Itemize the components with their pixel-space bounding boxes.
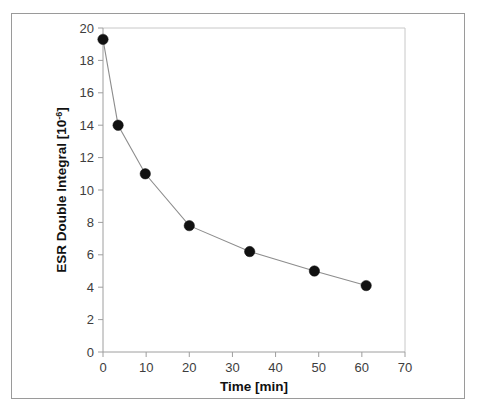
x-tick-label: 50	[311, 360, 325, 375]
x-tick-label: 70	[398, 360, 412, 375]
y-tick-label: 6	[87, 247, 94, 262]
y-tick-label: 10	[80, 183, 94, 198]
x-axis: 010203040506070	[99, 352, 412, 375]
data-point	[140, 169, 150, 179]
y-axis-title-main: ESR Double Integral [10	[54, 120, 69, 273]
figure-root: 02468101214161820 010203040506070 Time […	[0, 0, 481, 414]
data-point	[244, 246, 254, 256]
y-tick-label: 4	[87, 280, 94, 295]
y-axis-tick-labels: 02468101214161820	[80, 21, 94, 360]
x-axis-ticks	[103, 352, 405, 357]
data-point	[98, 34, 108, 44]
series-line	[103, 39, 366, 285]
data-point	[309, 266, 319, 276]
data-point	[184, 220, 194, 230]
y-axis-ticks	[98, 28, 103, 352]
x-tick-label: 40	[268, 360, 282, 375]
x-axis-tick-labels: 010203040506070	[99, 360, 412, 375]
y-axis-title-tail: ]	[54, 107, 69, 112]
x-tick-label: 20	[182, 360, 196, 375]
y-tick-label: 20	[80, 21, 94, 36]
y-tick-label: 18	[80, 53, 94, 68]
y-axis: 02468101214161820	[80, 21, 103, 360]
y-tick-label: 16	[80, 85, 94, 100]
y-tick-label: 8	[87, 215, 94, 230]
y-tick-label: 2	[87, 312, 94, 327]
plot-frame	[103, 28, 405, 352]
data-series	[98, 34, 372, 291]
y-axis-title: ESR Double Integral [10-6]	[54, 107, 69, 273]
esr-decay-chart: 02468101214161820 010203040506070 Time […	[0, 0, 481, 414]
y-tick-label: 0	[87, 345, 94, 360]
data-point	[113, 120, 123, 130]
y-tick-label: 12	[80, 150, 94, 165]
y-tick-label: 14	[80, 118, 94, 133]
x-tick-label: 10	[139, 360, 153, 375]
x-tick-label: 0	[99, 360, 106, 375]
x-tick-label: 60	[355, 360, 369, 375]
data-point	[361, 280, 371, 290]
x-tick-label: 30	[225, 360, 239, 375]
x-axis-title: Time [min]	[220, 379, 288, 394]
y-axis-title-superscript: -6	[54, 112, 64, 120]
